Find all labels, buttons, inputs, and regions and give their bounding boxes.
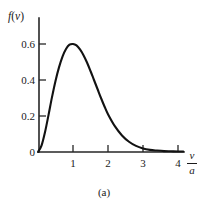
x-axis-label: v a [187,150,197,176]
figure-caption: (a) [0,186,208,198]
x-tick-label-2: 2 [105,157,111,169]
x-axis-label-numerator: v [189,150,196,162]
x-axis-label-denominator: a [188,165,196,177]
y-axis-label: f(v) [8,11,24,23]
x-tick-label-1: 1 [70,157,76,169]
y-axis-ticks [39,44,46,116]
figure-panel: 0.6 0.4 0.2 0 1 2 3 4 f(v) v a (a) [0,0,208,206]
x-tick-label-4: 4 [175,157,181,169]
plot-area: 0.6 0.4 0.2 0 1 2 3 4 [0,0,208,206]
y-tick-label-0.4: 0.4 [21,74,35,86]
y-tick-label-0.2: 0.2 [21,110,35,122]
distribution-curve [38,44,183,152]
x-tick-label-3: 3 [140,157,146,169]
y-tick-label-0.6: 0.6 [21,38,35,50]
y-tick-label-0: 0 [30,146,36,158]
